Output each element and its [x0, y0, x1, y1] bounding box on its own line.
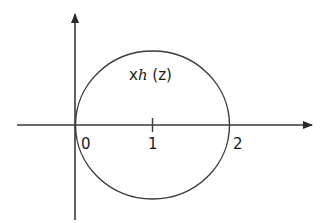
circle-diagram: 0 1 2 xh (z) — [0, 0, 330, 223]
curve-label-prefix: x — [129, 66, 138, 84]
tick-label-0: 0 — [81, 135, 91, 153]
curve-label-func: h — [138, 66, 148, 84]
curve-label: xh (z) — [129, 66, 172, 84]
tick-label-2: 2 — [233, 135, 243, 153]
curve-label-arg: (z) — [148, 66, 172, 84]
tick-label-1: 1 — [148, 135, 158, 153]
